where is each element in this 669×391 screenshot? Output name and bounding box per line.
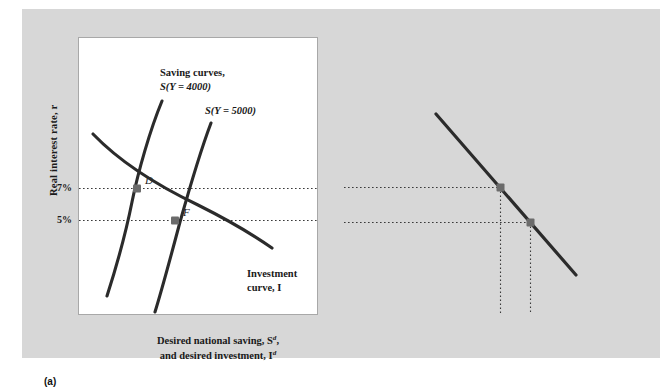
panel-a-x-axis-label: Desired national saving, Sd, and desired… xyxy=(118,331,318,362)
panel-a-point-label-D: D xyxy=(145,174,153,186)
panel-a-saving-curve-2-label: S(Y = 5000) xyxy=(205,104,256,118)
x-axis-label-line2: and desired investment, Id xyxy=(160,350,277,361)
panel-a-caption: (a) xyxy=(44,376,56,387)
investment-label-line1: Investment xyxy=(247,268,297,279)
figure-root: Real interest rate, r 7% 5% Saving curve… xyxy=(0,0,669,391)
x-axis-label-line1: Desired national saving, Sd, xyxy=(157,335,279,346)
panel-b: Real interest rate, r 7% 5% 4000 5000 D … xyxy=(330,0,669,391)
panel-a-point-label-F: F xyxy=(183,206,190,218)
panel-a: Real interest rate, r 7% 5% Saving curve… xyxy=(0,0,340,391)
panel-a-investment-curve-label: Investment curve, I xyxy=(247,267,297,294)
panel-a-saving-curves-label: Saving curves, S(Y = 4000) xyxy=(160,66,225,93)
panel-a-ytick-7: 7% xyxy=(57,182,72,193)
investment-label-line2: curve, I xyxy=(247,282,281,293)
panel-a-ytick-5: 5% xyxy=(57,214,72,225)
saving-curves-label-line2: S(Y = 4000) xyxy=(160,81,211,92)
saving-curves-label-line1: Saving curves, xyxy=(160,67,225,78)
